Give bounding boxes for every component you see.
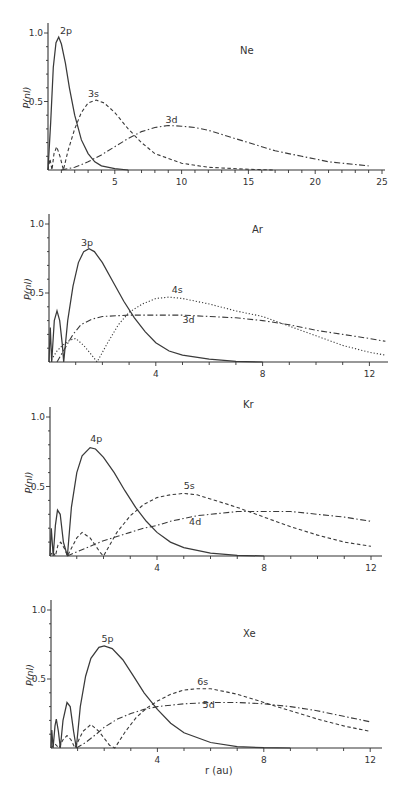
x-tick-label: 12: [365, 563, 376, 573]
panel-kr: Kr 48121.00.5P(nl)4p5s4d: [23, 399, 382, 573]
x-tick-label: 20: [309, 177, 321, 187]
curve-4d: [67, 512, 371, 557]
y-axis-label: P(nl): [21, 87, 32, 109]
element-label-ne: Ne: [240, 45, 254, 56]
element-label-kr: Kr: [243, 399, 255, 410]
y-tick-label: 1.0: [31, 412, 46, 422]
x-axis-label: r (au): [205, 765, 233, 776]
element-label-xe: Xe: [243, 628, 256, 639]
curve-label-3d: 3d: [183, 314, 195, 325]
x-tick-label: 12: [364, 369, 375, 379]
curve-3s: [48, 100, 275, 170]
curve-5s: [50, 493, 371, 556]
x-tick-label: 4: [154, 563, 160, 573]
element-label-ar: Ar: [252, 224, 264, 235]
curve-5p: [51, 646, 290, 748]
x-tick-label: 8: [261, 755, 267, 765]
curve-label-3p: 3p: [81, 237, 93, 248]
curve-3d: [61, 126, 368, 171]
curve-2p: [48, 37, 128, 170]
panel-xe: Xe 48121.00.5P(nl)5p6s5d: [24, 600, 382, 765]
curve-label-4d: 4d: [189, 516, 201, 527]
curve-label-5d: 5d: [203, 699, 215, 710]
x-tick-label: 12: [364, 755, 375, 765]
curve-label-6s: 6s: [197, 676, 208, 687]
x-tick-label: 8: [260, 369, 266, 379]
x-tick-label: 4: [153, 369, 159, 379]
curve-label-3d: 3d: [166, 114, 178, 125]
y-axis-label: P(nl): [23, 472, 34, 494]
curve-label-2p: 2p: [60, 25, 72, 36]
y-axis-label: P(nl): [24, 664, 35, 686]
curve-label-4s: 4s: [172, 284, 183, 295]
y-tick-label: 1.0: [32, 605, 47, 615]
panel-ar: Ar 48121.00.5P(nl)3p4s3d: [22, 214, 388, 379]
curve-3p: [49, 249, 263, 362]
curve-label-5p: 5p: [102, 633, 114, 644]
panel-ne: Ne 5101520251.00.5P(nl)2p3s3d: [21, 23, 388, 187]
y-tick-label: 1.0: [29, 28, 44, 38]
x-tick-label: 4: [155, 755, 161, 765]
y-axis-label: P(nl): [22, 278, 33, 300]
x-tick-label: 8: [261, 563, 267, 573]
x-tick-label: 25: [376, 177, 387, 187]
curve-6s: [51, 689, 370, 748]
x-tick-label: 10: [176, 177, 188, 187]
x-tick-label: 5: [112, 177, 118, 187]
curve-3d: [57, 315, 385, 362]
y-tick-label: 1.0: [30, 219, 45, 229]
x-tick-label: 15: [243, 177, 254, 187]
curve-label-4p: 4p: [90, 433, 102, 444]
curve-label-5s: 5s: [184, 480, 195, 491]
orbital-density-figure: Ne 5101520251.00.5P(nl)2p3s3d Ar 48121.0…: [0, 0, 408, 785]
curve-label-3s: 3s: [88, 88, 99, 99]
curve-4p: [50, 448, 264, 556]
curve-4s: [49, 297, 385, 362]
curve-5d: [76, 703, 370, 749]
